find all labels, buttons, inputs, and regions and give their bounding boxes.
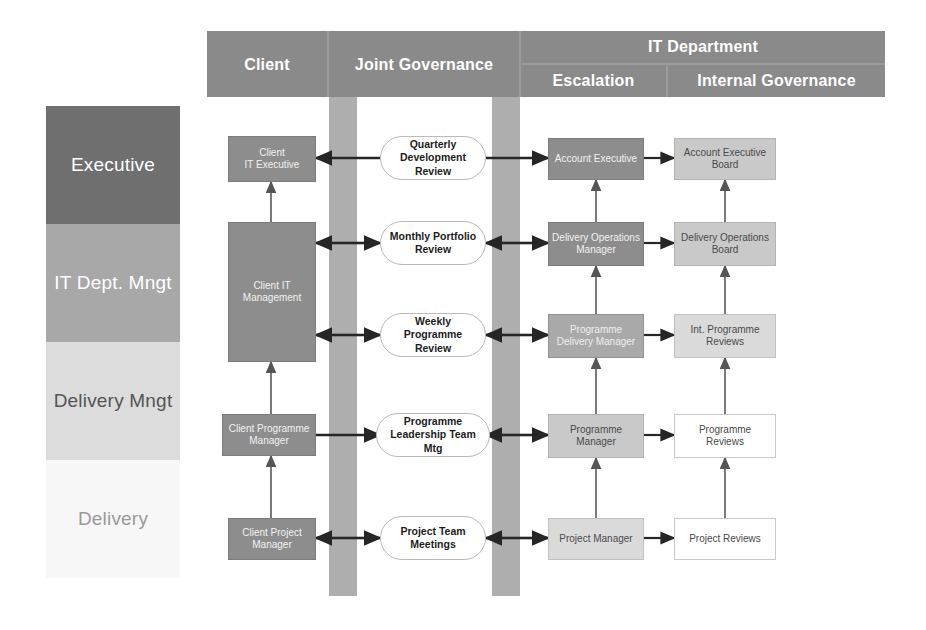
node-programme-manager[interactable]: Programme Manager xyxy=(548,414,644,458)
tier-executive: Executive xyxy=(46,106,180,224)
node-client-programme-manager[interactable]: Client Programme Manager xyxy=(222,414,316,456)
tier-it-dept-mngt: IT Dept. Mngt xyxy=(46,224,180,342)
node-programme-leadership-team-mtg-label: Programme Leadership Team Mtg xyxy=(381,415,485,454)
header-joint-governance-label: Joint Governance xyxy=(355,56,493,74)
node-delivery-operations-board-label: Delivery Operations Board xyxy=(681,232,769,256)
node-weekly-programme-review-label: Weekly Programme Review xyxy=(385,315,481,354)
node-project-manager-label: Project Manager xyxy=(559,533,632,545)
node-programme-delivery-manager[interactable]: Programme Delivery Manager xyxy=(548,314,644,358)
header-client-label: Client xyxy=(244,56,290,74)
tier-delivery-mngt: Delivery Mngt xyxy=(46,342,180,460)
node-delivery-operations-board[interactable]: Delivery Operations Board xyxy=(674,222,776,266)
node-programme-reviews[interactable]: Programme Reviews xyxy=(674,414,776,458)
node-programme-delivery-manager-label: Programme Delivery Manager xyxy=(557,324,635,348)
node-client-project-manager[interactable]: Client Project Manager xyxy=(228,518,316,560)
node-programme-reviews-label: Programme Reviews xyxy=(699,424,751,448)
node-programme-manager-label: Programme Manager xyxy=(570,424,622,448)
node-project-team-meetings-label: Project Team Meetings xyxy=(400,525,465,551)
node-client-project-manager-label: Client Project Manager xyxy=(242,527,301,551)
header-internal-governance-label: Internal Governance xyxy=(697,72,856,90)
node-monthly-portfolio-review-label: Monthly Portfolio Review xyxy=(390,230,476,256)
header-escalation: Escalation xyxy=(521,65,666,97)
header-joint-governance: Joint Governance xyxy=(329,48,519,82)
header-escalation-label: Escalation xyxy=(552,72,634,90)
node-int-programme-reviews[interactable]: Int. Programme Reviews xyxy=(674,314,776,358)
node-project-reviews-label: Project Reviews xyxy=(689,533,761,545)
node-client-programme-manager-label: Client Programme Manager xyxy=(229,423,310,447)
node-client-it-management-label: Client IT Management xyxy=(243,280,301,304)
node-account-executive-board[interactable]: Account Executive Board xyxy=(674,138,776,180)
node-weekly-programme-review[interactable]: Weekly Programme Review xyxy=(380,313,486,357)
swimlane-bar-joint-it xyxy=(492,97,520,596)
header-client: Client xyxy=(207,48,327,82)
governance-diagram: Executive IT Dept. Mngt Delivery Mngt De… xyxy=(0,0,926,630)
tier-delivery: Delivery xyxy=(46,460,180,578)
node-project-reviews[interactable]: Project Reviews xyxy=(674,518,776,560)
node-quarterly-development-review-label: Quarterly Development Review xyxy=(385,138,481,177)
tier-executive-label: Executive xyxy=(71,154,155,176)
node-delivery-operations-manager[interactable]: Delivery Operations Manager xyxy=(548,222,644,266)
swimlane-bar-client-joint xyxy=(329,97,357,596)
header-internal-governance: Internal Governance xyxy=(668,65,885,97)
tier-it-dept-mngt-label: IT Dept. Mngt xyxy=(54,272,171,294)
node-monthly-portfolio-review[interactable]: Monthly Portfolio Review xyxy=(380,221,486,265)
node-account-executive[interactable]: Account Executive xyxy=(548,138,644,180)
node-client-it-executive-label: Client IT Executive xyxy=(245,147,300,171)
node-int-programme-reviews-label: Int. Programme Reviews xyxy=(691,324,760,348)
node-programme-leadership-team-mtg[interactable]: Programme Leadership Team Mtg xyxy=(376,413,490,457)
node-client-it-management[interactable]: Client IT Management xyxy=(228,222,316,362)
node-account-executive-label: Account Executive xyxy=(555,153,637,165)
node-project-team-meetings[interactable]: Project Team Meetings xyxy=(380,516,486,560)
node-account-executive-board-label: Account Executive Board xyxy=(684,147,766,171)
node-project-manager[interactable]: Project Manager xyxy=(548,518,644,560)
tier-delivery-mngt-label: Delivery Mngt xyxy=(54,390,173,412)
node-delivery-operations-manager-label: Delivery Operations Manager xyxy=(552,232,640,256)
header-it-department: IT Department xyxy=(521,31,885,63)
node-quarterly-development-review[interactable]: Quarterly Development Review xyxy=(380,136,486,180)
header-it-department-label: IT Department xyxy=(648,38,758,56)
tier-delivery-label: Delivery xyxy=(78,508,148,530)
node-client-it-executive[interactable]: Client IT Executive xyxy=(228,136,316,182)
